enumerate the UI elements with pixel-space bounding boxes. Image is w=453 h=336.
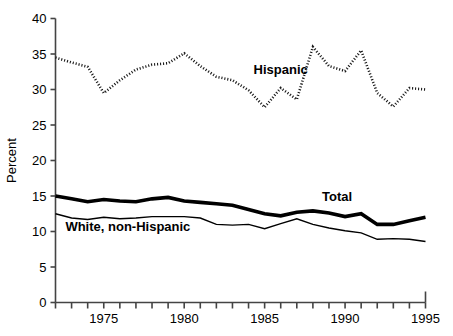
y-tick-label: 0 (39, 295, 46, 310)
y-tick-label: 30 (32, 82, 46, 97)
y-tick-label: 20 (32, 153, 46, 168)
chart-container: 0510152025303540 19751980198519901995 Hi… (0, 0, 453, 336)
y-tick-label: 25 (32, 118, 46, 133)
series-label-total: Total (322, 189, 352, 204)
x-tick-label: 1980 (170, 311, 199, 326)
series-annotations: HispanicTotalWhite, non-Hispanic (65, 62, 352, 234)
series-label-white-non-hispanic: White, non-Hispanic (65, 219, 190, 234)
x-tick-label: 1985 (250, 311, 279, 326)
y-tick-label: 10 (32, 224, 46, 239)
y-axis-title-text: Percent (4, 138, 19, 183)
x-axis-tick-labels: 19751980198519901995 (89, 311, 440, 326)
y-tick-label: 35 (32, 47, 46, 62)
y-axis-tick-labels: 0510152025303540 (32, 11, 46, 310)
x-axis-line (56, 292, 426, 303)
y-tick-label: 40 (32, 11, 46, 26)
x-tick-label: 1990 (331, 311, 360, 326)
y-axis-title: Percent (4, 138, 19, 183)
y-tick-label: 5 (39, 260, 46, 275)
series-label-hispanic: Hispanic (254, 62, 308, 77)
series-line-hispanic (56, 47, 426, 107)
x-tick-label: 1995 (411, 311, 440, 326)
data-series-group (56, 47, 426, 242)
x-axis-ticks (56, 303, 426, 309)
y-tick-label: 15 (32, 189, 46, 204)
x-tick-label: 1975 (89, 311, 118, 326)
line-chart: 0510152025303540 19751980198519901995 Hi… (0, 0, 453, 336)
